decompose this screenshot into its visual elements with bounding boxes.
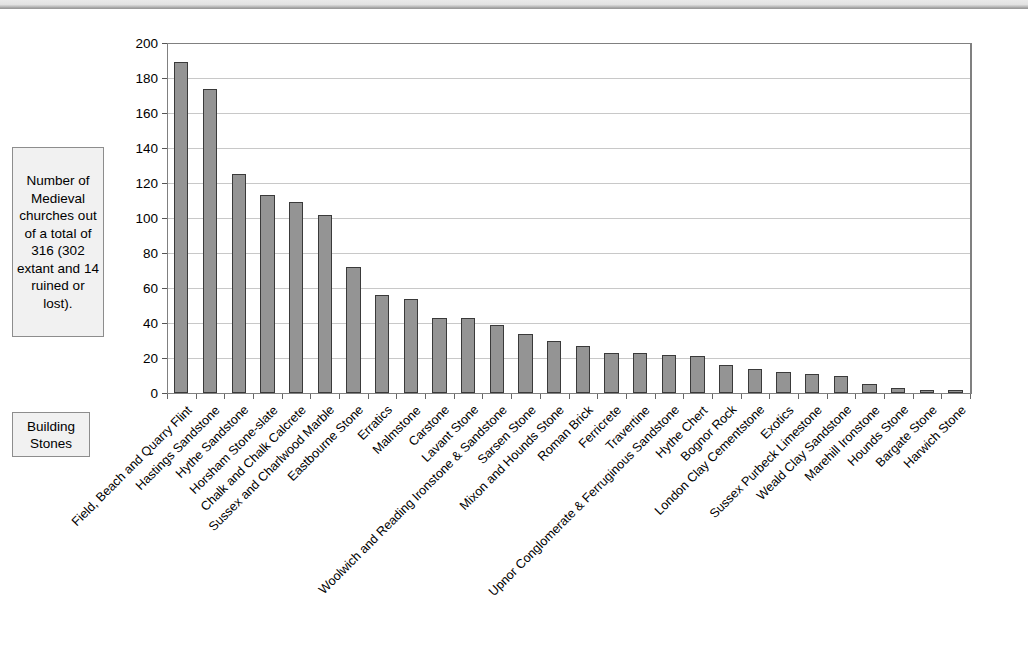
x-tick-mark [970, 394, 971, 399]
y-axis-title-text: Number of Medieval churches out of a tot… [16, 172, 100, 312]
x-tick-mark [798, 394, 799, 399]
bar[interactable] [920, 390, 934, 393]
x-tick-mark [913, 394, 914, 399]
x-tick-mark [941, 394, 942, 399]
bar[interactable] [690, 356, 704, 393]
y-tick-label-0: 0 [150, 386, 158, 401]
bar[interactable] [232, 174, 246, 393]
bar[interactable] [719, 365, 733, 393]
bar[interactable] [633, 353, 647, 393]
bar[interactable] [404, 299, 418, 394]
x-tick-mark [855, 394, 856, 399]
x-tick-mark [769, 394, 770, 399]
x-tick-mark [282, 394, 283, 399]
x-tick-mark [827, 394, 828, 399]
y-tick-label-80: 80 [143, 246, 158, 261]
x-tick-mark [626, 394, 627, 399]
x-tick-mark [167, 394, 168, 399]
x-tick-mark [196, 394, 197, 399]
x-axis-ticks [167, 394, 970, 400]
x-tick-mark [310, 394, 311, 399]
x-tick-mark [224, 394, 225, 399]
x-tick-mark [482, 394, 483, 399]
y-axis: 020406080100120140160180200 [128, 43, 167, 394]
x-axis-title-box: Building Stones [12, 412, 90, 457]
x-tick-mark [884, 394, 885, 399]
bar[interactable] [805, 374, 819, 393]
bars-container [167, 43, 970, 393]
x-tick-mark [454, 394, 455, 399]
x-tick-mark [253, 394, 254, 399]
y-tick-label-200: 200 [135, 36, 158, 51]
bar[interactable] [375, 295, 389, 393]
y-tick-label-120: 120 [135, 176, 158, 191]
x-tick-mark [655, 394, 656, 399]
bar[interactable] [432, 318, 446, 393]
y-tick-label-40: 40 [143, 316, 158, 331]
bar[interactable] [547, 341, 561, 394]
x-tick-mark [712, 394, 713, 399]
x-axis-title-text: Building Stones [13, 418, 89, 452]
bar[interactable] [891, 388, 905, 393]
x-tick-mark [683, 394, 684, 399]
x-tick-mark [368, 394, 369, 399]
bar[interactable] [461, 318, 475, 393]
bar[interactable] [260, 195, 274, 393]
bar[interactable] [834, 376, 848, 394]
x-tick-mark [511, 394, 512, 399]
x-tick-mark [396, 394, 397, 399]
bar-chart: Number of Medieval churches out of a tot… [0, 0, 1028, 660]
y-tick-label-180: 180 [135, 71, 158, 86]
bar[interactable] [174, 62, 188, 393]
y-tick-label-60: 60 [143, 281, 158, 296]
x-tick-mark [540, 394, 541, 399]
bar[interactable] [748, 369, 762, 394]
y-tick-label-20: 20 [143, 351, 158, 366]
x-tick-mark [425, 394, 426, 399]
y-tick-label-140: 140 [135, 141, 158, 156]
bar[interactable] [203, 89, 217, 394]
bar[interactable] [576, 346, 590, 393]
x-tick-mark [339, 394, 340, 399]
y-axis-title-box: Number of Medieval churches out of a tot… [12, 147, 104, 337]
bar[interactable] [862, 384, 876, 393]
bar[interactable] [604, 353, 618, 393]
bar[interactable] [776, 372, 790, 393]
x-tick-mark [569, 394, 570, 399]
y-tick-label-100: 100 [135, 211, 158, 226]
bar[interactable] [346, 267, 360, 393]
bar[interactable] [490, 325, 504, 393]
bar[interactable] [518, 334, 532, 394]
x-tick-mark [741, 394, 742, 399]
y-tick-label-160: 160 [135, 106, 158, 121]
bar[interactable] [289, 202, 303, 393]
bar[interactable] [948, 390, 962, 393]
bar[interactable] [662, 355, 676, 394]
x-tick-mark [597, 394, 598, 399]
bar[interactable] [318, 215, 332, 394]
